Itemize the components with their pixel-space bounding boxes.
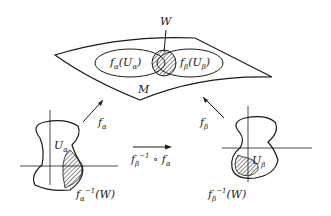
label-fa-Ua: fα(Uα) [110, 57, 141, 71]
label-U-beta: Uβ [252, 155, 265, 169]
alpha-inverse-W [63, 150, 82, 188]
overlap-W [152, 50, 176, 76]
label-W: W [160, 16, 171, 27]
manifold-diagram: W M fα(Uα) fβ(Uβ) fα fβ Uα Uβ fβ−1 ∘ fα … [0, 0, 331, 216]
label-fb-inverse-W: fβ−1(W) [208, 188, 246, 203]
label-f-beta: fβ [200, 117, 208, 131]
label-fb-Ub: fβ(Uβ) [180, 57, 210, 71]
label-transition: fβ−1 ∘ fα [131, 153, 171, 168]
label-fa-inverse-W: fα−1(W) [76, 188, 115, 203]
label-U-alpha: Uα [54, 140, 68, 154]
label-M: M [138, 84, 149, 95]
diagram-canvas [0, 0, 331, 216]
label-f-alpha: fα [98, 117, 107, 131]
